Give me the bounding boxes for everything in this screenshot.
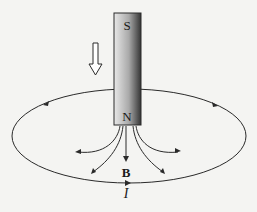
field-arrowhead-right-inner bbox=[160, 168, 165, 174]
field-arrowhead-left-inner bbox=[91, 168, 96, 174]
field-line-right-outer bbox=[136, 126, 178, 152]
magnetic-field-label: B bbox=[122, 165, 131, 180]
south-pole-label: S bbox=[123, 18, 130, 33]
field-arrowhead-center bbox=[123, 156, 129, 162]
field-line-left-outer bbox=[78, 126, 120, 152]
hollow-down-arrow-icon bbox=[89, 43, 102, 75]
north-pole-label: N bbox=[122, 109, 132, 124]
loop-arrowhead-upper-right bbox=[212, 102, 218, 107]
diagram-canvas: S N B I bbox=[0, 0, 257, 212]
current-label: I bbox=[123, 186, 130, 201]
field-arrowhead-left-outer bbox=[75, 149, 81, 154]
